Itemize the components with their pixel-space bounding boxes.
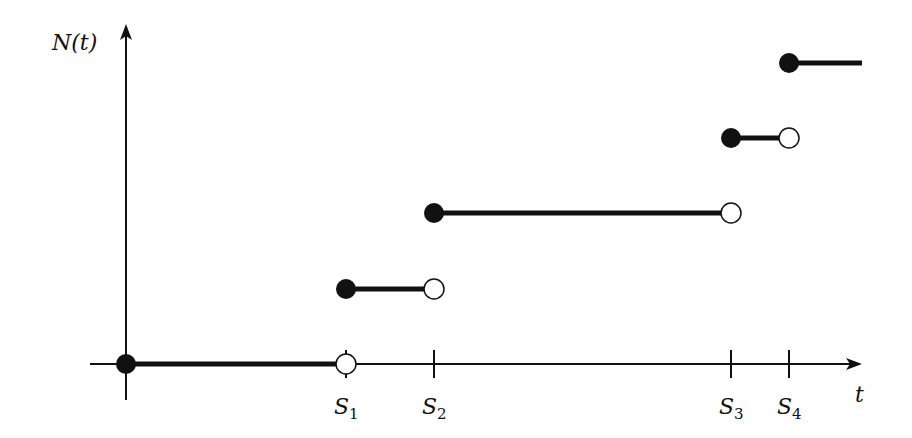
x-tick-label: S4 xyxy=(777,394,802,423)
closed-endpoint-icon xyxy=(779,53,799,73)
closed-endpoint-icon xyxy=(336,279,356,299)
open-endpoint-icon xyxy=(779,128,799,148)
closed-endpoint-icon xyxy=(721,128,741,148)
x-tick-label: S1 xyxy=(334,394,359,423)
x-axis-label: t xyxy=(855,382,864,407)
closed-endpoint-icon xyxy=(424,203,444,223)
y-axis-label: N(t) xyxy=(51,30,97,55)
open-endpoint-icon xyxy=(336,354,356,374)
counting-process-chart: S1S2S3S4N(t)t xyxy=(0,0,912,438)
open-endpoint-icon xyxy=(424,279,444,299)
x-tick-label: S2 xyxy=(422,394,447,423)
open-endpoint-icon xyxy=(721,203,741,223)
x-tick-label: S3 xyxy=(719,394,744,423)
closed-endpoint-icon xyxy=(116,354,136,374)
